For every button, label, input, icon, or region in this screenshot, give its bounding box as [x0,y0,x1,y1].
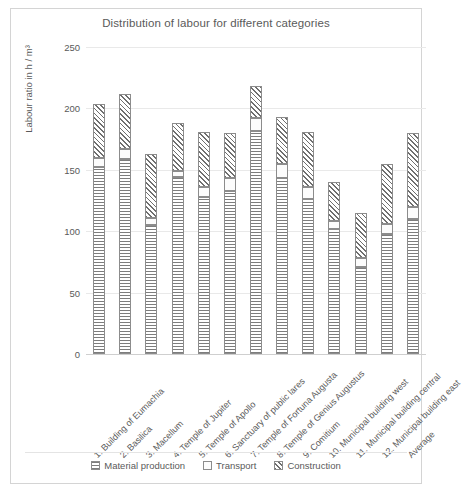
bar-segment-construction [302,132,314,187]
bar-segment-transport [145,218,157,225]
bar[interactable] [172,123,184,354]
bar[interactable] [381,164,393,354]
bar-segment-transport [198,187,210,197]
bar-segment-transport [302,187,314,199]
x-axis-line [86,354,426,355]
y-axis-tick: 150 [64,164,80,175]
bar[interactable] [407,133,419,354]
bar-segment-material-production [119,159,131,354]
gridline [86,47,426,48]
y-axis-tick: 200 [64,103,80,114]
y-axis-tick: 100 [64,226,80,237]
bar[interactable] [276,117,288,354]
bar[interactable] [250,86,262,354]
chart-legend: Material productionTransportConstruction [11,460,421,471]
bar[interactable] [119,94,131,354]
bar-segment-material-production [302,199,314,354]
bar-segment-construction [250,86,262,118]
bar-segment-transport [381,224,393,234]
bar-segment-material-production [198,197,210,354]
chart-title: Distribution of labour for different cat… [11,17,421,29]
legend-swatch-icon [203,461,212,470]
bar[interactable] [198,132,210,354]
bar[interactable] [145,154,157,354]
bar-segment-construction [224,133,236,178]
bar-segment-construction [381,164,393,224]
legend-label: Transport [216,460,256,471]
bar-segment-material-production [407,219,419,354]
bar-segment-material-production [328,229,340,354]
bar-segment-construction [198,132,210,187]
bar-segment-construction [119,94,131,149]
legend-label: Material production [104,460,185,471]
bar-segment-material-production [145,225,157,354]
bar-segment-material-production [381,234,393,354]
y-axis-tick: 250 [64,42,80,53]
legend-item[interactable]: Construction [274,460,340,471]
bar-segment-transport [328,221,340,228]
y-axis-label: Labour ratio in h / m³ [23,19,34,159]
bar-segment-transport [172,171,184,177]
bar-segment-construction [276,117,288,164]
bar-segment-transport [224,178,236,190]
bar-segment-construction [93,104,105,158]
bar-segment-material-production [276,178,288,354]
bar-segment-material-production [250,131,262,354]
legend-divider [25,452,407,453]
legend-label: Construction [287,460,340,471]
bar[interactable] [302,132,314,354]
bar-segment-construction [328,182,340,221]
bar-segment-material-production [172,177,184,354]
bar[interactable] [93,104,105,355]
legend-item[interactable]: Material production [91,460,185,471]
bar-segment-transport [119,149,131,159]
legend-item[interactable]: Transport [203,460,256,471]
bar-segment-transport [407,207,419,219]
x-axis-labels: 1. Building of Eumachia2. Basilica3. Mac… [86,356,426,466]
legend-swatch-icon [274,461,283,470]
bar-segment-transport [93,158,105,168]
bar-segment-transport [276,164,288,179]
bar-segment-construction [355,213,367,258]
bar-segment-transport [250,118,262,130]
bar-segment-transport [355,258,367,267]
chart-frame: Distribution of labour for different cat… [10,8,422,484]
y-axis-tick: 50 [69,287,80,298]
bar-segment-material-production [355,267,367,354]
legend-swatch-icon [91,461,100,470]
bar-segment-construction [172,123,184,171]
bar-segment-construction [407,133,419,207]
bar[interactable] [328,182,340,354]
bar[interactable] [355,213,367,354]
plot-area: 050100150200250 [86,47,426,354]
bar-segment-material-production [93,167,105,354]
bar-segment-construction [145,154,157,218]
y-axis-tick: 0 [75,349,80,360]
bar-segment-material-production [224,191,236,354]
bar[interactable] [224,133,236,354]
